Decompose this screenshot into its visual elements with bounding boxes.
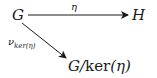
label-nu-sub: ker(η)	[14, 42, 35, 50]
quotient-arg: (η)	[110, 57, 131, 75]
node-g: G	[12, 8, 24, 23]
quotient-g: G/	[68, 57, 85, 75]
node-h: H	[132, 8, 145, 23]
label-nu: νker(η)	[8, 37, 35, 50]
label-eta: η	[71, 2, 77, 12]
quotient-ker: ker	[85, 57, 110, 75]
node-quotient: G/ker(η)	[68, 59, 131, 74]
